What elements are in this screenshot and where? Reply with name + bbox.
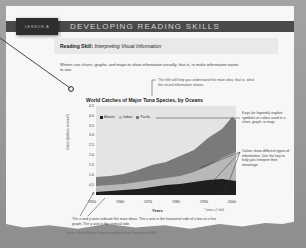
colors-arrow-3 <box>224 152 240 195</box>
pointer-line <box>0 38 70 88</box>
x-axis-arrow <box>88 198 105 216</box>
pointer-circle-icon <box>69 87 74 92</box>
colors-arrow-1 <box>200 152 240 168</box>
y-axis-arrow <box>80 192 94 216</box>
callout-lines <box>0 0 306 248</box>
colors-arrow-2 <box>206 152 240 189</box>
